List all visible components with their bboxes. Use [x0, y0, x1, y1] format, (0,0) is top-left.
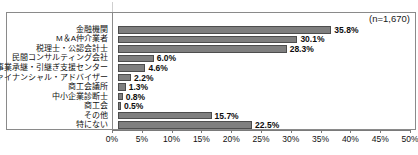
bar	[118, 102, 121, 110]
category-label: 税理士・公認会計士	[36, 45, 108, 53]
x-axis-tick-label: 50%	[401, 135, 418, 144]
bar	[118, 74, 131, 82]
bar-row: 税理士・公認会計士28.3%	[6, 44, 416, 54]
bar-row: その他15.7%	[6, 111, 416, 121]
bar-value-label: 30.1%	[300, 35, 324, 44]
x-axis-tick	[410, 130, 411, 133]
x-axis-tick	[380, 130, 381, 133]
bar	[118, 64, 145, 72]
x-axis-tick	[201, 130, 202, 133]
x-axis-tick-label: 5%	[136, 135, 148, 144]
bar-track: 0.5%	[118, 101, 416, 111]
bar-value-label: 15.7%	[215, 111, 239, 120]
x-axis-tick-label: 15%	[193, 135, 210, 144]
x-axis-tick-label: 25%	[252, 135, 269, 144]
x-axis-tick-label: 20%	[223, 135, 240, 144]
bar-row: 商工会議所1.3%	[6, 82, 416, 92]
category-label: M＆A仲介業者	[56, 35, 108, 43]
x-axis-tick	[321, 130, 322, 133]
x-axis-tick	[142, 130, 143, 133]
bar-value-label: 2.2%	[134, 73, 153, 82]
x-axis-tick	[231, 130, 232, 133]
bar-value-label: 0.5%	[124, 102, 143, 111]
bar-row: 金融機関35.8%	[6, 25, 416, 35]
x-axis-tick-label: 45%	[372, 135, 389, 144]
x-axis-tick-label: 10%	[163, 135, 180, 144]
bar-track: 0.8%	[118, 92, 416, 102]
x-axis-tick-label: 40%	[342, 135, 359, 144]
category-label: 商工会	[84, 102, 108, 110]
bar	[118, 55, 154, 63]
bar-value-label: 0.8%	[126, 92, 145, 101]
bar-value-label: 22.5%	[255, 121, 279, 130]
bar-value-label: 35.8%	[334, 26, 358, 35]
bar	[118, 93, 123, 101]
bar-row: ファイナンシャル・アドバイザー2.2%	[6, 73, 416, 83]
bar-row: 事業承継・引継ぎ支援センター4.6%	[6, 63, 416, 73]
bar-rows: 金融機関35.8%M＆A仲介業者30.1%税理士・公認会計士28.3%民間コンサ…	[6, 25, 416, 130]
bar	[118, 36, 297, 44]
bar-value-label: 6.0%	[157, 54, 176, 63]
bar-row: 商工会0.5%	[6, 101, 416, 111]
bar-value-label: 4.6%	[148, 64, 167, 73]
category-label: 民間コンサルティング会社	[12, 54, 108, 62]
bar-row: 中小企業診断士0.8%	[6, 92, 416, 102]
bar-value-label: 1.3%	[129, 83, 148, 92]
category-label: 商工会議所	[68, 83, 108, 91]
category-label: 特にない	[76, 121, 108, 129]
bar	[118, 83, 126, 91]
x-axis: 0%5%10%15%20%25%30%35%40%45%50%	[112, 130, 410, 152]
bar-row: M＆A仲介業者30.1%	[6, 35, 416, 45]
horizontal-bar-chart: (n=1,670) 金融機関35.8%M＆A仲介業者30.1%税理士・公認会計士…	[0, 0, 418, 155]
x-axis-tick	[350, 130, 351, 133]
bar-track: 30.1%	[118, 35, 416, 45]
sample-size-annotation: (n=1,670)	[369, 13, 410, 24]
x-axis-tick-label: 30%	[282, 135, 299, 144]
category-label: ファイナンシャル・アドバイザー	[0, 74, 108, 82]
bar-value-label: 28.3%	[290, 45, 314, 54]
x-axis-tick	[261, 130, 262, 133]
bar	[118, 121, 252, 129]
category-label: 金融機関	[76, 26, 108, 34]
bar-track: 22.5%	[118, 120, 416, 130]
category-label: 事業承継・引継ぎ支援センター	[0, 64, 108, 72]
bar-track: 4.6%	[118, 63, 416, 73]
x-axis-tick	[172, 130, 173, 133]
x-axis-tick-label: 35%	[312, 135, 329, 144]
category-label: 中小企業診断士	[52, 93, 108, 101]
bar-track: 1.3%	[118, 82, 416, 92]
bar	[118, 112, 212, 120]
bar-track: 2.2%	[118, 73, 416, 83]
x-axis-tick	[291, 130, 292, 133]
category-label: その他	[84, 112, 108, 120]
bar-row: 民間コンサルティング会社6.0%	[6, 54, 416, 64]
bar-row: 特にない22.5%	[6, 120, 416, 130]
bar-track: 35.8%	[118, 25, 416, 35]
x-axis-tick-label: 0%	[106, 135, 118, 144]
bar	[118, 26, 331, 34]
x-axis-tick	[112, 130, 113, 133]
bar	[118, 45, 287, 53]
